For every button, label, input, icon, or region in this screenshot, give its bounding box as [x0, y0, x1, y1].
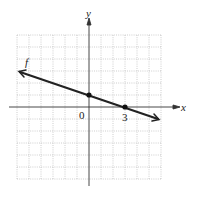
x-tick-label: 3	[122, 111, 128, 123]
x-axis-label: x	[180, 101, 186, 113]
point-x-intercept	[122, 104, 127, 109]
point-y-intercept	[86, 92, 91, 97]
x-axis-arrow-icon	[173, 105, 180, 109]
axes	[9, 18, 180, 186]
coordinate-graph: f x y 0 3	[0, 0, 201, 200]
origin-label: 0	[79, 109, 85, 121]
y-axis-label: y	[85, 7, 91, 19]
y-axis-arrow-icon	[87, 18, 91, 25]
